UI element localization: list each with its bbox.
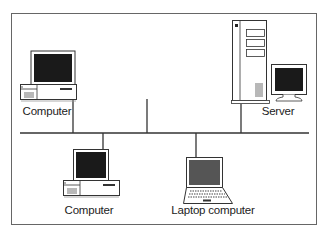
laptop-computer-icon — [184, 158, 233, 204]
node-label-computer-bottom: Computer — [65, 204, 114, 216]
node-label-computer-top-left: Computer — [23, 105, 72, 117]
desktop-computer-icon — [20, 51, 77, 101]
desktop-computer-icon — [63, 150, 120, 198]
node-label-laptop: Laptop computer — [171, 204, 254, 216]
network-diagram — [0, 0, 326, 235]
node-label-server: Server — [262, 105, 295, 117]
server-icon — [232, 21, 307, 104]
diagram-frame — [12, 14, 317, 225]
